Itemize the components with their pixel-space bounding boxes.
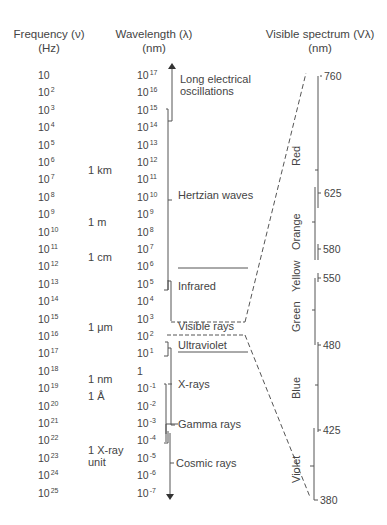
vis-tick-580: 580 <box>323 243 341 255</box>
vis-tick-760: 760 <box>324 70 342 82</box>
color-violet: Violet <box>290 456 302 483</box>
band-ultraviolet: Ultraviolet <box>178 339 227 351</box>
vis-tick-550: 550 <box>323 272 341 284</box>
band-long-electrical: Long electrical oscillations <box>180 73 251 97</box>
band-cosmic: Cosmic rays <box>176 457 237 469</box>
vis-tick-425: 425 <box>323 424 341 436</box>
band-visible: Visible rays <box>178 320 234 332</box>
band-infrared: Infrared <box>178 280 216 292</box>
color-orange: Orange <box>290 213 302 250</box>
color-red: Red <box>290 146 302 166</box>
band-long-electrical-line2: oscillations <box>180 85 251 97</box>
color-blue: Blue <box>290 377 302 399</box>
color-green: Green <box>290 301 302 332</box>
vis-tick-380: 380 <box>320 494 338 506</box>
band-long-electrical-line1: Long electrical <box>180 73 251 85</box>
vis-tick-480: 480 <box>323 339 341 351</box>
vis-tick-625: 625 <box>324 187 342 199</box>
band-gamma: Gamma rays <box>178 418 241 430</box>
color-yellow: Yellow <box>290 261 302 292</box>
band-xrays: X-rays <box>178 378 210 390</box>
band-hertzian: Hertzian waves <box>178 189 253 201</box>
